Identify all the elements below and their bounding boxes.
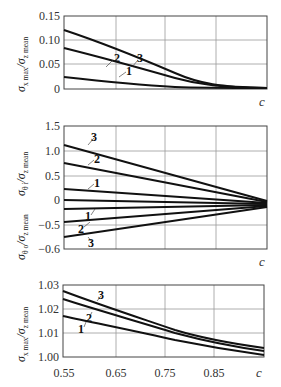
mid-label-2-inner: 2 xyxy=(94,152,100,166)
bot-y-axis-label: σx max/σz mean xyxy=(14,307,30,362)
top-label-3: 3 xyxy=(137,51,143,65)
bot-label-3: 3 xyxy=(98,288,104,302)
mid-label-3-outer: 3 xyxy=(88,236,94,250)
xtick-0.75: 0.75 xyxy=(155,366,176,380)
middle-panel: 3 2 1 1 2 3 1.5 1.0 0.5 0 −0.5 −0.6 c σθ… xyxy=(14,119,267,269)
top-ytick-015: 0.15 xyxy=(39,9,60,23)
mid-x-label-c: c xyxy=(259,254,265,269)
bot-ytick-1.00: 1.00 xyxy=(38,350,59,364)
top-label-1: 1 xyxy=(126,64,132,78)
mid-label-1-inner: 1 xyxy=(94,176,100,190)
mid-ytick-0: 0 xyxy=(54,193,60,207)
mid-ytick-neg0.5: −0.5 xyxy=(38,218,60,232)
mid-y-axis-label-outer: σθ o/σz mean xyxy=(14,214,30,260)
bot-curve-3 xyxy=(63,291,264,348)
bot-ytick-1.01: 1.01 xyxy=(38,326,59,340)
mid-label-2-outer: 2 xyxy=(78,222,84,236)
xtick-0.55: 0.55 xyxy=(54,366,75,380)
top-ytick-0: 0 xyxy=(54,82,60,96)
xtick-0.65: 0.65 xyxy=(106,366,127,380)
mid-y-axis-label-inner: σθ i/σz mean xyxy=(14,152,30,196)
xtick-0.85: 0.85 xyxy=(204,366,225,380)
bot-curve-1 xyxy=(63,316,264,355)
bottom-panel: 3 2 1 1.03 1.02 1.01 1.00 0.55 0.65 0.75… xyxy=(14,278,264,380)
mid-ytick-1.0: 1.0 xyxy=(45,144,60,158)
mid-ytick-1.5: 1.5 xyxy=(45,119,60,133)
mid-label-3-inner: 3 xyxy=(91,130,97,144)
top-x-label-c: c xyxy=(259,94,265,109)
top-ytick-005: 0.05 xyxy=(39,57,60,71)
bot-ytick-1.03: 1.03 xyxy=(38,278,59,292)
stress-ratio-figure: 2 1 3 0.15 0.10 0.05 0 c σx max/σz mean … xyxy=(0,0,281,387)
top-y-axis-label: σx max/σz mean xyxy=(14,37,30,92)
mid-curve-3-outer xyxy=(64,207,267,237)
bot-x-label-c: c xyxy=(256,365,262,380)
top-ytick-010: 0.10 xyxy=(39,33,60,47)
mid-label-1-outer: 1 xyxy=(85,209,91,223)
bot-ytick-1.02: 1.02 xyxy=(38,302,59,316)
mid-ytick-neg0.6: −0.6 xyxy=(38,242,60,256)
top-label-2: 2 xyxy=(114,51,120,65)
top-panel: 2 1 3 0.15 0.10 0.05 0 c σx max/σz mean xyxy=(14,9,267,109)
top-plot-frame xyxy=(64,16,267,89)
bot-label-2: 2 xyxy=(86,311,92,325)
mid-ytick-0.5: 0.5 xyxy=(45,169,60,183)
bot-label-1: 1 xyxy=(78,322,84,336)
